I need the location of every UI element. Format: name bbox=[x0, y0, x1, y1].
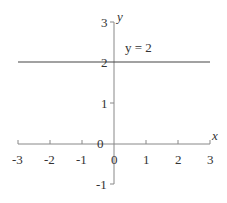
x-tick-label: 3 bbox=[207, 152, 214, 167]
x-tick-label: 0 bbox=[111, 152, 118, 167]
y-axis-label: y bbox=[115, 9, 123, 24]
y-tick-label-2: 2 bbox=[101, 55, 108, 70]
x-tick-label: 1 bbox=[143, 152, 150, 167]
chart-canvas: 3 2 1 0 -1 -3 -2 -1 0 1 2 3 y x y = 2 bbox=[0, 0, 227, 203]
y-tick-label-neg1: -1 bbox=[96, 177, 107, 192]
y-tick-label-1: 1 bbox=[101, 96, 108, 111]
line-annotation: y = 2 bbox=[125, 40, 152, 55]
y-tick-label-3: 3 bbox=[101, 15, 108, 30]
x-tick-label: -1 bbox=[76, 152, 87, 167]
y-tick-label-0: 0 bbox=[97, 136, 104, 151]
x-tick-label: -3 bbox=[12, 152, 23, 167]
x-tick-label: 2 bbox=[175, 152, 182, 167]
x-axis-label: x bbox=[211, 128, 218, 143]
x-tick-label: -2 bbox=[44, 152, 55, 167]
